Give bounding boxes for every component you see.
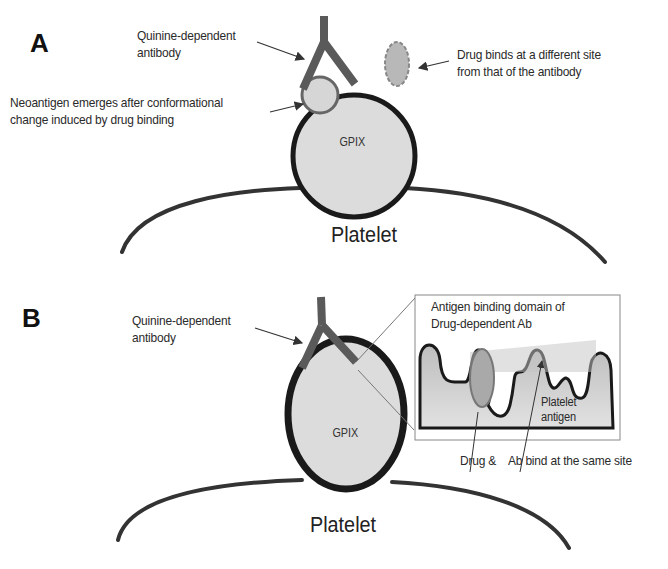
- drug-label-a-line2: from that of the antibody: [457, 64, 581, 80]
- drug-label-a-line1: Drug binds at a different site: [457, 47, 601, 63]
- platelet-antigen-label-line2: antigen: [541, 410, 576, 424]
- antibody-label-b-line1: Quinine-dependent: [132, 313, 231, 329]
- drug-ab-label-part1: Drug &: [460, 453, 496, 469]
- gpix-receptor-a: [293, 95, 415, 217]
- antibody-label-a-line1: Quinine-dependent: [137, 28, 236, 44]
- gpix-label-a: GPIX: [339, 135, 365, 149]
- antibody-label-b-line2: antibody: [132, 330, 176, 346]
- drug-molecule-b: [470, 349, 494, 407]
- drug-molecule-a: [385, 42, 409, 86]
- drug-ab-label-part2: Ab bind at the same site: [508, 453, 632, 469]
- arrow-antibody-b: [255, 328, 302, 343]
- neoantigen-label-line2: change induced by drug binding: [10, 112, 174, 128]
- arrow-neoantigen: [270, 104, 303, 112]
- panel-a-label: A: [30, 28, 49, 59]
- diagram-canvas: [0, 0, 668, 569]
- gpix-label-b: GPIX: [332, 426, 358, 440]
- arrow-antibody-a: [257, 42, 304, 59]
- platelet-label-b: Platelet: [310, 512, 376, 538]
- platelet-antigen-label-line1: Platelet: [541, 395, 576, 409]
- platelet-label-a: Platelet: [331, 222, 397, 248]
- inset-title-line2: Drug-dependent Ab: [431, 316, 532, 332]
- panel-b-label: B: [22, 303, 41, 334]
- inset-title-line1: Antigen binding domain of: [431, 299, 565, 315]
- zoom-line-1: [356, 298, 415, 362]
- arrow-drug-a: [419, 61, 449, 68]
- antibody-label-a-line2: antibody: [137, 45, 181, 61]
- neoantigen-label-line1: Neoantigen emerges after conformational: [10, 95, 223, 111]
